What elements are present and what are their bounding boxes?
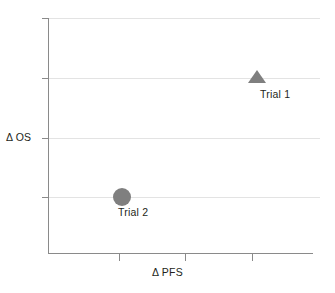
gridline-top xyxy=(48,18,320,19)
data-point-trial-1-label: Trial 1 xyxy=(260,88,290,100)
gridline-second xyxy=(48,78,320,79)
data-point-trial-1-marker xyxy=(248,70,266,83)
x-axis-tick-1 xyxy=(119,254,120,261)
x-axis-tick-2 xyxy=(185,254,186,261)
scatter-chart: Δ OS Δ PFS Trial 1 Trial 2 xyxy=(0,0,335,293)
x-axis-tick-3 xyxy=(252,254,253,261)
y-axis-tick-4 xyxy=(42,197,49,198)
x-axis-line xyxy=(48,253,313,254)
x-axis-label: Δ PFS xyxy=(0,266,335,278)
y-axis-label: Δ OS xyxy=(6,131,31,143)
data-point-trial-2-label: Trial 2 xyxy=(118,206,148,218)
y-axis-line xyxy=(48,18,49,254)
gridline-fourth xyxy=(48,197,320,198)
y-axis-tick-3 xyxy=(42,138,49,139)
gridline-middle xyxy=(48,138,320,139)
y-axis-tick-2 xyxy=(42,78,49,79)
data-point-trial-2-marker xyxy=(113,188,131,206)
y-axis-tick-1 xyxy=(42,18,49,19)
